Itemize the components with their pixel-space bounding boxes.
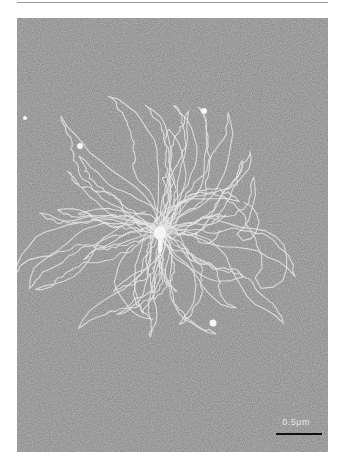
micrograph-image: 0.5μm (17, 18, 328, 452)
phage-tail (158, 239, 162, 252)
particle (210, 320, 217, 327)
micrograph-grain (17, 18, 328, 452)
phage-capsid (154, 226, 166, 240)
particle (201, 108, 207, 114)
micrograph-canvas (17, 18, 328, 452)
particle (77, 143, 83, 149)
scale-bar-label: 0.5μm (282, 417, 310, 427)
scale-bar (276, 433, 322, 435)
particle (23, 116, 27, 120)
top-rule (17, 2, 328, 3)
